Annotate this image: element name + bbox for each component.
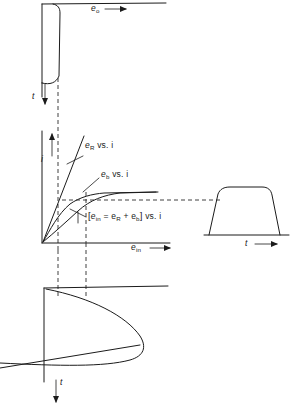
eo-axis-label: eo	[91, 4, 100, 13]
e-in-sum-curve-label: [ein = eR + eb] vs. i	[88, 211, 161, 221]
pulse-top-waveform-curve	[42, 4, 60, 84]
top-panel-time-label: t	[32, 92, 35, 101]
technical-diagram-figure: eo t i ein eR vs. i eb vs. i [ein = eR +…	[0, 0, 291, 410]
top-left-panel-group	[42, 3, 166, 104]
trapezoidal-pulse-waveform	[209, 187, 280, 235]
e-b-curve-label: eb vs. i	[101, 170, 128, 179]
current-axis-label: i	[41, 155, 43, 164]
diagram-canvas	[0, 0, 291, 410]
top-horizontal-axis	[42, 3, 166, 4]
bottom-panel-time-label: t	[60, 378, 63, 387]
e-r-label-leader	[67, 156, 83, 164]
right-panel-time-label: t	[245, 239, 248, 248]
right-panel-group	[204, 187, 289, 244]
bottom-panel-top-line	[44, 286, 168, 288]
bottom-left-panel-group	[0, 286, 168, 402]
current-lobe-waveform	[0, 289, 144, 365]
bottom-panel-slanted-baseline	[0, 345, 140, 368]
e-r-characteristic-line	[43, 136, 84, 242]
ein-axis-label: ein	[131, 243, 141, 252]
e-b-label-leader	[83, 178, 99, 192]
e-r-curve-label: eR vs. i	[85, 141, 113, 150]
